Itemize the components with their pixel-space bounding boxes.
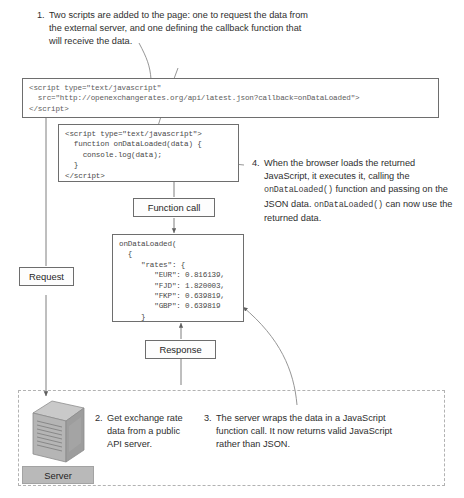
note-1-number: 1.	[37, 9, 49, 22]
note-3-number: 3.	[204, 412, 216, 425]
note-2: 2. Get exchange rate data from a public …	[95, 412, 187, 452]
note-4-code-b: onDataLoaded()	[314, 200, 383, 210]
note-2-text: Get exchange rate data from a public API…	[107, 412, 187, 452]
server-label: Server	[22, 466, 94, 484]
note-4-number: 4.	[252, 157, 264, 170]
diagram-canvas: 1. Two scripts are added to the page: on…	[0, 0, 464, 498]
note-4: 4. When the browser loads the returned J…	[252, 157, 457, 225]
label-request: Request	[19, 267, 74, 286]
note-4-code-a: onDataLoaded()	[264, 185, 333, 195]
code-block-callback-script: <script type="text/javascript"> function…	[58, 124, 239, 182]
code-block-request-script: <script type="text/javascript" src="http…	[22, 78, 439, 118]
note-2-number: 2.	[95, 412, 107, 425]
label-response: Response	[145, 340, 216, 359]
label-function-call: Function call	[133, 198, 215, 217]
note-3: 3. The server wraps the data in a JavaSc…	[204, 412, 409, 452]
note-4-part-a: When the browser loads the returned Java…	[264, 158, 415, 181]
server-icon-graphic	[25, 396, 91, 464]
server-icon	[25, 396, 91, 464]
note-1-text: Two scripts are added to the page: one t…	[49, 9, 312, 49]
code-block-response-payload: onDataLoaded( { "rates": { "EUR": 0.8161…	[112, 234, 244, 322]
note-3-text: The server wraps the data in a JavaScrip…	[216, 412, 409, 452]
note-4-text: When the browser loads the returned Java…	[264, 157, 457, 225]
note-1: 1. Two scripts are added to the page: on…	[37, 9, 312, 49]
